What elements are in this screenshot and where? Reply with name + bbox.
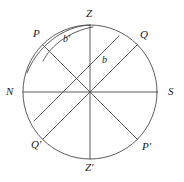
- celestial-sphere-diagram: [0, 0, 184, 182]
- label-equator-point: Q: [140, 29, 148, 40]
- label-south: S: [168, 86, 174, 97]
- label-arc-b: b: [102, 55, 107, 65]
- label-nadir: Z': [85, 162, 93, 173]
- figure-container: Z Z' N S P P' Q Q' b' b: [0, 0, 184, 182]
- label-equator-point-opposite: Q': [31, 139, 41, 150]
- label-zenith: Z: [86, 8, 92, 19]
- label-pole: P: [33, 28, 40, 39]
- label-pole-opposite: P': [142, 141, 151, 152]
- label-arc-b-prime: b': [63, 34, 70, 44]
- label-north: N: [6, 86, 13, 97]
